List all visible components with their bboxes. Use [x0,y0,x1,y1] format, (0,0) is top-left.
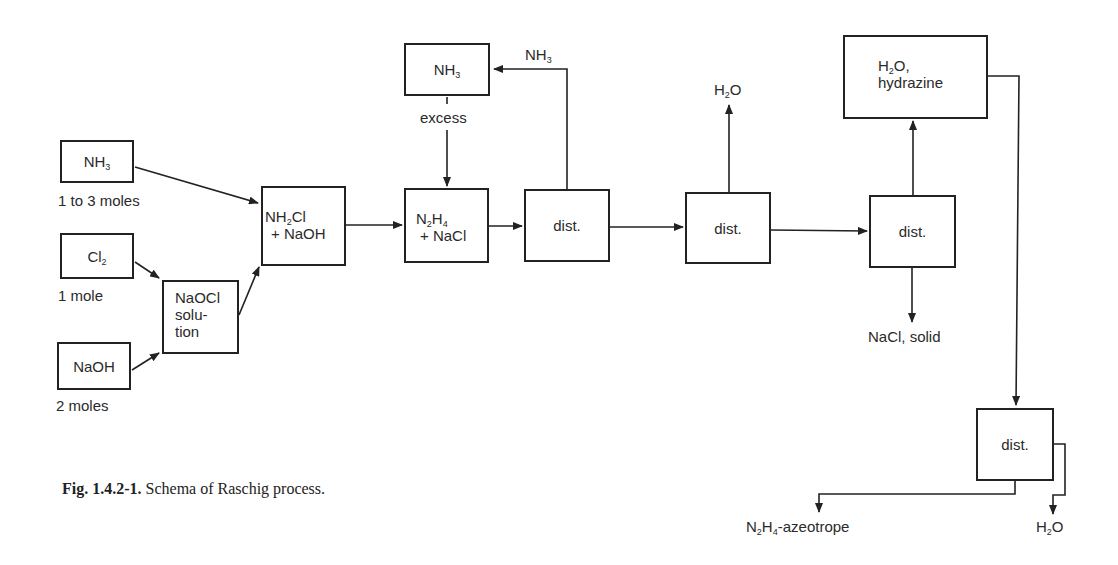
figure-number: Fig. 1.4.2-1. [62,480,142,497]
distillation-column-4: dist. [976,408,1054,481]
hydrazine-line2: + NaCl [416,227,487,244]
naocl-line1: NaOCl [175,289,237,306]
nh3-excess-box: NH3 [404,43,490,96]
chloramine-line1: NH2Cl [265,208,344,225]
chloramine-line2: + NaOH [265,225,344,242]
dist3-label: dist. [899,223,927,240]
cl2-feed-box: Cl2 [60,233,134,279]
nh3-excess-label: NH3 [434,61,461,78]
cl2-feed-label: Cl2 [87,248,106,265]
distillation-column-1: dist. [524,189,610,262]
h2o-hydrazine-box: H2O, hydrazine [843,35,988,119]
dist2-label: dist. [714,220,742,237]
dist1-label: dist. [553,217,581,234]
h2o-hydrazine-line2: hydrazine [878,74,986,91]
nacl-solid-label: NaCl, solid [868,328,941,345]
distillation-column-3: dist. [869,195,956,268]
azeotrope-label: N2H4-azeotrope [746,518,849,535]
naocl-line3: tion [175,323,237,340]
chloramine-reactor-box: NH2Cl + NaOH [261,186,346,266]
nh3-excess-note: excess [420,109,467,126]
figure-caption: Fig. 1.4.2-1. Schema of Raschig process. [62,480,325,498]
naoh-feed-box: NaOH [57,342,131,390]
hydrazine-reactor-box: N2H4 + NaCl [404,188,489,263]
naocl-line2: solu- [175,306,237,323]
naoh-feed-label: NaOH [73,358,115,375]
cl2-feed-quantity: 1 mole [58,287,103,304]
nh3-feed-quantity: 1 to 3 moles [58,192,140,209]
h2o-bottom-label: H2O [1036,518,1064,535]
h2o-hydrazine-line1: H2O, [878,57,986,74]
naoh-feed-quantity: 2 moles [56,397,109,414]
nh3-feed-label: NH3 [84,153,111,170]
distillation-column-2: dist. [685,192,771,264]
hydrazine-line1: N2H4 [416,210,487,227]
figure-caption-text: Schema of Raschig process. [146,480,326,497]
nh3-recycle-label: NH3 [525,46,552,63]
dist4-label: dist. [1001,436,1029,453]
h2o-overhead-label: H2O [714,81,742,98]
naocl-solution-box: NaOCl solu- tion [162,280,239,354]
nh3-feed-box: NH3 [60,140,134,183]
